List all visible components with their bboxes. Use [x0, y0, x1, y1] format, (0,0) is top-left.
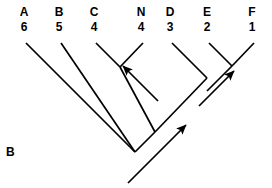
tip-branch-C — [96, 43, 120, 67]
branch-group — [26, 43, 254, 152]
tip-branch-D — [172, 43, 207, 78]
cladogram-figure: A B C N D E F 6 5 4 4 3 2 1 B — [0, 0, 272, 188]
clade-CN-to-root — [135, 132, 155, 152]
arrow-to-node-root — [128, 125, 186, 183]
tip-branch-N — [120, 43, 143, 67]
tip-branch-B — [61, 43, 135, 152]
tip-branch-E — [209, 43, 232, 66]
cladogram-svg — [0, 0, 272, 188]
clade-EF-stem — [207, 66, 232, 91]
tip-branch-A — [26, 43, 135, 152]
arrow-group — [123, 66, 234, 183]
clade-CN-stem — [120, 67, 155, 132]
tip-branch-F — [232, 43, 254, 66]
